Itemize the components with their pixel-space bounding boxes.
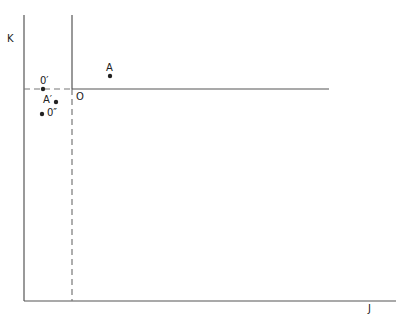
point-A — [108, 74, 112, 78]
label-A: A — [106, 63, 113, 73]
label-O-double-prime: 0″ — [47, 108, 57, 118]
label-A-prime: A′ — [43, 95, 52, 105]
diagram-canvas — [0, 0, 408, 322]
point-O-prime — [41, 87, 45, 91]
y-axis-label: K — [7, 34, 14, 44]
label-O-prime: 0′ — [40, 76, 49, 86]
point-O-double-prime — [40, 112, 44, 116]
x-axis-label: J — [368, 304, 371, 314]
origin-label: O — [76, 92, 84, 102]
point-A-prime — [54, 100, 58, 104]
